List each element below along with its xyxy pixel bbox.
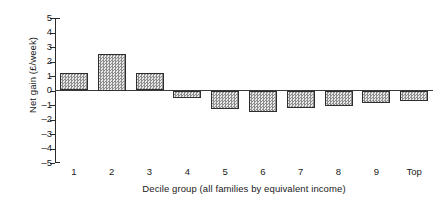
y-axis-tick-label: 4 <box>47 26 52 38</box>
y-axis-tick-label: 0 <box>47 84 52 96</box>
x-axis-label: Decile group (all families by equivalent… <box>55 182 433 196</box>
x-axis-tick-label: 3 <box>131 165 169 179</box>
y-axis-tick-label: –5 <box>41 157 52 169</box>
y-axis-label: Net gain (£/week) <box>26 0 40 150</box>
x-axis-tick-label: 2 <box>93 165 131 179</box>
x-axis-tick-label: 8 <box>320 165 358 179</box>
y-axis-tick-label: 1 <box>47 70 52 82</box>
x-axis-tick-label: 1 <box>55 165 93 179</box>
bar <box>211 91 239 110</box>
x-axis-tick-label: 9 <box>357 165 395 179</box>
bar <box>173 91 201 98</box>
bar <box>287 91 315 108</box>
bar <box>98 54 126 90</box>
bar <box>400 91 428 102</box>
net-gain-bar-chart: Net gain (£/week) 543210–1–2–3–4–5 12345… <box>0 0 443 206</box>
y-axis-tick-label: –4 <box>41 142 52 154</box>
x-axis-tick-label: 7 <box>282 165 320 179</box>
y-axis-tick-label: 3 <box>47 41 52 53</box>
x-axis-tick-label: 6 <box>244 165 282 179</box>
x-axis-tick-label: 4 <box>168 165 206 179</box>
y-axis-tick-label: –1 <box>41 99 52 111</box>
bar <box>249 91 277 113</box>
x-axis-ticks: 123456789Top <box>55 165 433 179</box>
x-axis-tick-label: Top <box>395 165 433 179</box>
y-axis-tick-label: 5 <box>47 12 52 24</box>
bar <box>136 73 164 90</box>
x-axis-tick-label: 5 <box>206 165 244 179</box>
y-axis-tick-label: 2 <box>47 55 52 67</box>
bars-layer <box>55 18 433 163</box>
y-axis-tick-label: –3 <box>41 128 52 140</box>
plot-area: 543210–1–2–3–4–5 <box>55 18 433 163</box>
y-axis-tick-label: –2 <box>41 113 52 125</box>
bar <box>362 91 390 103</box>
bar <box>325 91 353 106</box>
bar <box>60 73 88 90</box>
